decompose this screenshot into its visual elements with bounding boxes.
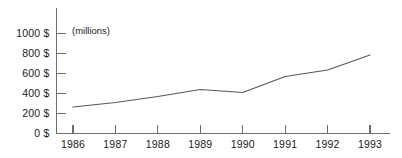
y-tick-label: 400 $ xyxy=(22,87,49,99)
x-tick-label: 1990 xyxy=(231,138,255,150)
x-tick-label: 1991 xyxy=(273,138,297,150)
y-tick-marks xyxy=(57,34,66,134)
y-tick-label: 800 $ xyxy=(22,47,49,59)
y-tick-label: 1000 $ xyxy=(16,27,49,39)
x-tick-marks xyxy=(73,125,370,134)
chart-canvas: 1000 $800 $600 $400 $200 $0 $ 1986198719… xyxy=(0,0,402,158)
y-tick-labels: 1000 $800 $600 $400 $200 $0 $ xyxy=(16,27,49,139)
x-tick-label: 1993 xyxy=(358,138,382,150)
x-tick-label: 1987 xyxy=(103,138,127,150)
plot-area xyxy=(73,55,370,107)
x-tick-label: 1989 xyxy=(188,138,212,150)
y-axis: 1000 $800 $600 $400 $200 $0 $ xyxy=(16,8,65,139)
unit-note-label: (millions) xyxy=(72,25,110,36)
x-tick-label: 1988 xyxy=(146,138,170,150)
x-tick-label: 1992 xyxy=(315,138,339,150)
x-tick-labels: 19861987198819891990199119921993 xyxy=(61,138,382,150)
y-tick-label: 600 $ xyxy=(22,67,49,79)
data-series-line xyxy=(73,55,370,107)
x-axis: 19861987198819891990199119921993 xyxy=(57,125,391,150)
line-chart: 1000 $800 $600 $400 $200 $0 $ 1986198719… xyxy=(0,0,402,158)
y-tick-label: 200 $ xyxy=(22,107,49,119)
y-tick-label: 0 $ xyxy=(34,127,49,139)
x-tick-label: 1986 xyxy=(61,138,85,150)
